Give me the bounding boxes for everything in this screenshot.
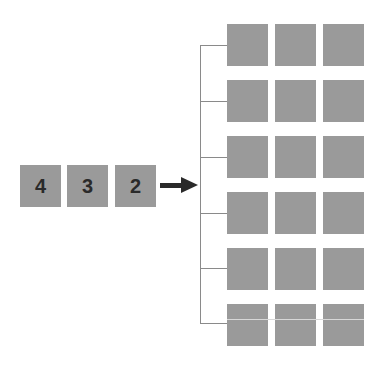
- grid-block: [227, 304, 268, 346]
- grid-block: [275, 248, 316, 290]
- scan-line: [227, 319, 364, 320]
- grid-block: [227, 80, 268, 122]
- grid-block: [275, 304, 316, 346]
- grid-block: [227, 192, 268, 234]
- grid-block: [275, 80, 316, 122]
- grid-block: [275, 136, 316, 178]
- grid-block: [323, 304, 364, 346]
- grid-block: [275, 24, 316, 66]
- grid-block: [227, 136, 268, 178]
- connector-branch-4: [200, 213, 227, 214]
- input-block-3-label: 3: [67, 165, 108, 207]
- connector-branch-1: [200, 45, 227, 46]
- grid-block: [323, 24, 364, 66]
- grid-block: [227, 24, 268, 66]
- connector-trunk: [200, 45, 201, 324]
- connector-branch-5: [200, 268, 227, 269]
- input-block-2-label: 2: [115, 165, 156, 207]
- grid-block: [323, 136, 364, 178]
- arrow-shaft: [160, 183, 182, 188]
- grid-block: [227, 248, 268, 290]
- grid-block: [323, 248, 364, 290]
- grid-block: [323, 80, 364, 122]
- connector-branch-6: [200, 323, 227, 324]
- grid-block: [275, 192, 316, 234]
- input-block-4-label: 4: [20, 165, 61, 207]
- connector-branch-3: [200, 157, 227, 158]
- grid-block: [323, 192, 364, 234]
- arrow-right-icon: [181, 177, 198, 193]
- connector-branch-2: [200, 101, 227, 102]
